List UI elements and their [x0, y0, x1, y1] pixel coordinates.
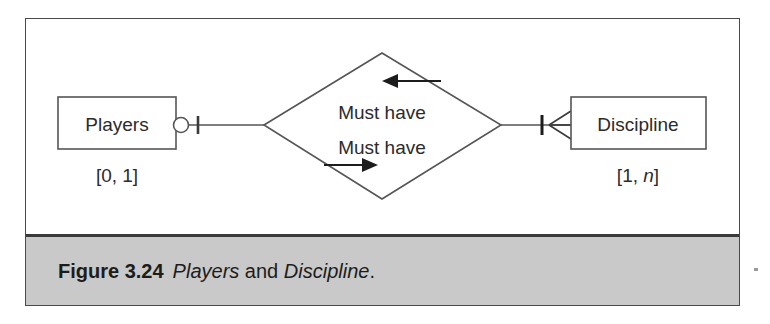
relationship-diamond-must-have[interactable] — [264, 53, 501, 199]
er-diagram-svg: Players [0, 1] Must have Must have — [26, 19, 738, 235]
figure-caption-entity-2: Discipline — [284, 260, 370, 282]
scan-artifact-speck — [754, 268, 758, 271]
er-diagram-area: Players [0, 1] Must have Must have — [26, 19, 739, 235]
cardinality-label-players: [0, 1] — [96, 165, 138, 186]
crowsfoot-many-icon-right — [549, 111, 571, 139]
figure-page: Players [0, 1] Must have Must have — [0, 0, 770, 324]
entity-label-players: Players — [85, 114, 148, 135]
cardinality-close-discipline: ] — [654, 165, 659, 186]
cardinality-label-discipline: [1, n] — [617, 165, 659, 186]
figure-caption-bar: Figure 3.24Players and Discipline. — [26, 234, 739, 305]
relationship-label-top: Must have — [338, 102, 426, 123]
figure-frame: Players [0, 1] Must have Must have — [25, 18, 740, 306]
cardinality-italic-n-discipline: n — [643, 165, 654, 186]
relationship-label-bottom: Must have — [338, 137, 426, 158]
figure-caption-period: . — [369, 260, 375, 282]
crowsfoot-zero-circle-left — [174, 118, 189, 133]
figure-caption-entity-1: Players — [173, 260, 240, 282]
entity-label-discipline: Discipline — [597, 114, 678, 135]
figure-caption-number: Figure 3.24 — [58, 260, 164, 282]
cardinality-open-discipline: [1, — [617, 165, 643, 186]
figure-caption-joiner: and — [239, 260, 283, 282]
figure-caption: Figure 3.24Players and Discipline. — [58, 260, 375, 283]
figure-caption-title: Players and Discipline. — [173, 260, 375, 282]
